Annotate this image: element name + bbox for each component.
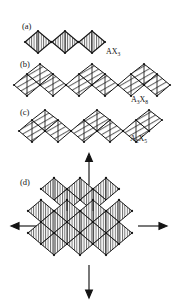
- formula-a: AX3: [106, 47, 120, 56]
- arrow-down-icon: [86, 265, 93, 298]
- panel-d-diagram: [2, 152, 176, 302]
- formula-c-sub-1: 2: [136, 138, 139, 144]
- formula-a-sub: 3: [118, 51, 121, 57]
- formula-c-sub-2: 5: [144, 138, 147, 144]
- formula-b-sub-1: 3: [137, 99, 140, 105]
- arrow-right-icon: [138, 223, 167, 230]
- formula-c-base-1: A: [130, 134, 136, 143]
- panel-a-diagram: [24, 29, 108, 55]
- arrow-up-icon: [86, 154, 93, 186]
- formula-c: A2X5: [130, 134, 147, 143]
- figure-canvas: (a): [0, 0, 178, 303]
- formula-b-base-1: A: [131, 95, 137, 104]
- formula-b: A3X8: [131, 95, 148, 104]
- formula-a-base: AX: [106, 47, 118, 56]
- formula-b-sub-2: 8: [145, 99, 148, 105]
